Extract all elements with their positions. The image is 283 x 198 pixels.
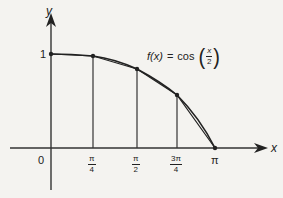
func-cos: cos [177, 50, 194, 62]
tick-numerator: π [132, 155, 140, 165]
tick-numerator: π [88, 155, 96, 165]
x-tick-pi: π [211, 155, 219, 166]
x-axis-label: x [271, 142, 277, 154]
tick-denominator: 2 [134, 165, 138, 174]
left-paren: ( [198, 45, 205, 67]
point-3pi-over-4 [175, 93, 179, 97]
point-pi-over-4 [91, 54, 95, 58]
function-label: f(x) = cos ( x 2 ) [147, 46, 221, 66]
arg-denominator: 2 [207, 57, 211, 66]
x-tick-pi-over-2: π 2 [132, 155, 140, 174]
point-pi-over-2 [135, 67, 139, 71]
x-tick-pi-over-4: π 4 [88, 155, 96, 174]
arg-numerator: x [206, 47, 212, 57]
tick-denominator: 4 [90, 165, 94, 174]
point-0 [49, 52, 53, 56]
point-pi [213, 146, 217, 150]
origin-label: 0 [38, 155, 44, 166]
func-eq: = [167, 50, 173, 62]
chart-canvas [0, 0, 283, 198]
x-tick-3pi-over-4: 3π 4 [170, 155, 182, 174]
tick-denominator: 4 [174, 165, 178, 174]
func-arg-fraction: x 2 [206, 47, 212, 66]
y-axis-label: y [46, 5, 52, 17]
right-paren: ) [213, 45, 220, 67]
y-tick-1: 1 [40, 49, 46, 60]
tick-numerator: 3π [170, 155, 182, 165]
chord-polyline [51, 54, 215, 148]
func-name: f(x) [147, 50, 163, 62]
